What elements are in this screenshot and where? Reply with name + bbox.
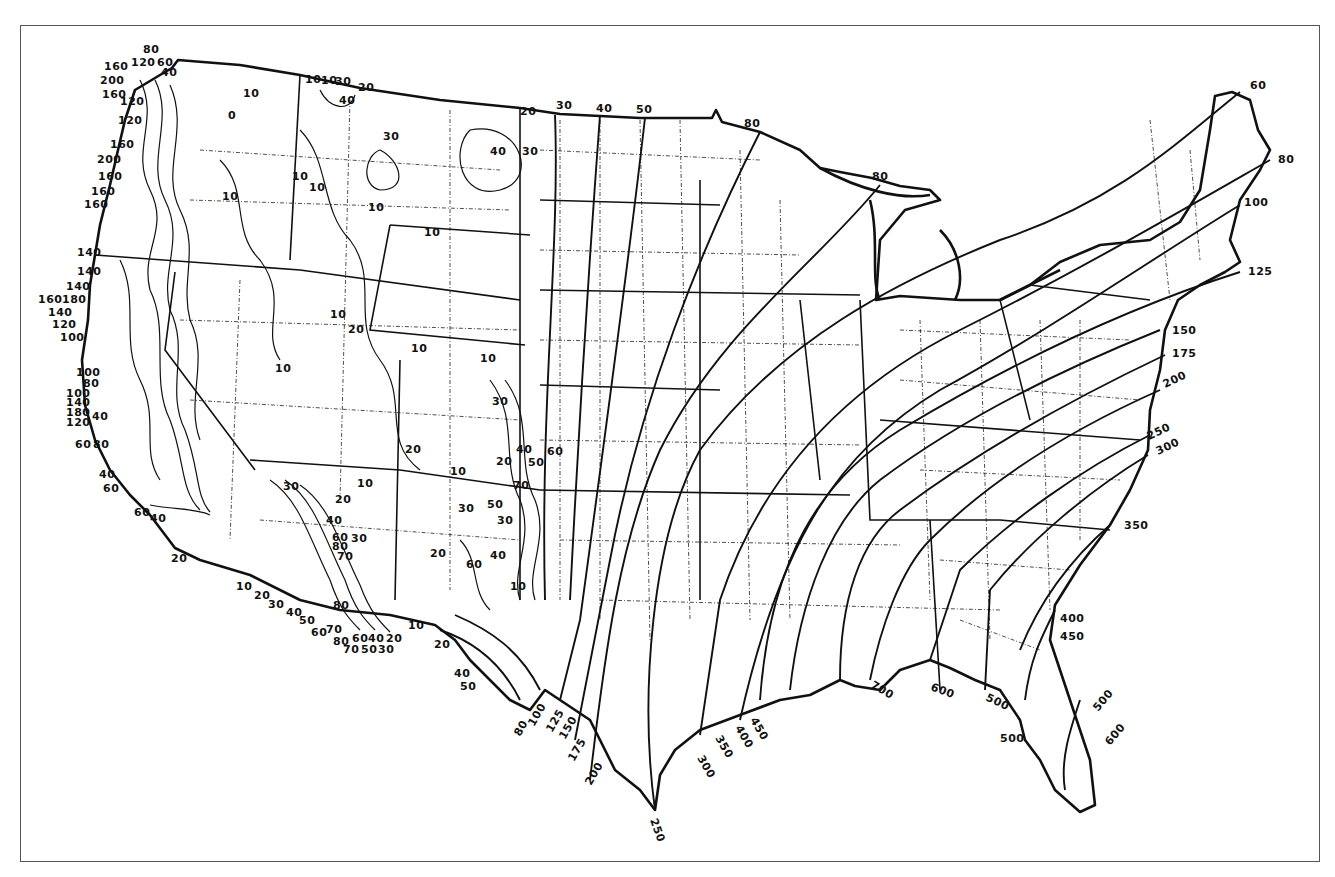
isoline-label: 500 <box>1090 687 1116 714</box>
isoline-label: 20 <box>171 552 187 565</box>
isoline-label: 40 <box>161 66 177 79</box>
isoline-label: 80 <box>872 170 888 183</box>
isoline-label: 60 <box>75 438 91 451</box>
isoline-labels: 8016012060402001601201200101602001601601… <box>38 43 1294 844</box>
isoline-label: 70 <box>343 643 359 656</box>
isoline-label: 20 <box>496 455 512 468</box>
isoline-label: 250 <box>647 817 668 844</box>
isoline-label: 30 <box>378 643 394 656</box>
isoline-label: 10 <box>243 87 259 100</box>
isoline-label: 200 <box>582 760 605 788</box>
isoline-label: 20 <box>434 638 450 651</box>
western-isolines <box>120 80 540 632</box>
isoline-label: 40 <box>516 443 532 456</box>
isoline-label: 20 <box>405 443 421 456</box>
isoline-label: 20 <box>335 493 351 506</box>
isoline-label: 10 <box>222 190 238 203</box>
isoline-label: 120 <box>131 56 155 69</box>
isoline-label: 40 <box>596 102 612 115</box>
isoline-label: 80 <box>333 599 349 612</box>
isoline-label: 10 <box>236 580 252 593</box>
isoline-label: 30 <box>497 514 513 527</box>
isoline-label: 40 <box>99 468 115 481</box>
isoline-label: 40 <box>150 512 166 525</box>
isoline-label: 350 <box>712 733 735 761</box>
isoline-label: 10 <box>450 465 466 478</box>
isoline-label: 30 <box>351 532 367 545</box>
isoline-label: 50 <box>460 680 476 693</box>
isoline-label: 100 <box>1244 196 1268 209</box>
isoline-label: 60 <box>311 626 327 639</box>
isoline-label: 30 <box>492 395 508 408</box>
isoline-label: 80 <box>93 438 109 451</box>
isoline-label: 10 <box>411 342 427 355</box>
isoline-label: 350 <box>1124 519 1148 532</box>
isoline-label: 80 <box>1278 153 1294 166</box>
isoline-label: 10 <box>510 580 526 593</box>
isoline-label: 0 <box>228 109 236 122</box>
isoline-label: 10 <box>408 619 424 632</box>
isoline-label: 700 <box>869 678 897 701</box>
isoline-label: 600 <box>1102 721 1128 748</box>
isoline-label: 140 <box>77 246 101 259</box>
isoline-label: 80 <box>744 117 760 130</box>
isoline-label: 100 <box>60 331 84 344</box>
county-boundaries <box>180 100 1200 650</box>
isoline-label: 10 <box>368 201 384 214</box>
isoline-label: 70 <box>513 479 529 492</box>
isoline-label: 300 <box>694 753 717 781</box>
isoline-label: 10 <box>305 73 321 86</box>
isoline-label: 30 <box>283 480 299 493</box>
isoline-label: 30 <box>556 99 572 112</box>
isoline-label: 40 <box>454 667 470 680</box>
isoline-label: 500 <box>984 691 1012 713</box>
isoline-label: 160 <box>84 198 108 211</box>
isoline-label: 60 <box>103 482 119 495</box>
isoline-label: 60 <box>466 558 482 571</box>
isoline-label: 20 <box>430 547 446 560</box>
isoline-label: 160 <box>104 60 128 73</box>
isoline-label: 30 <box>458 502 474 515</box>
isoline-label: 180 <box>62 293 86 306</box>
isoline-label: 160 <box>91 185 115 198</box>
isoline-label: 10 <box>275 362 291 375</box>
isoline-label: 30 <box>383 130 399 143</box>
isoline-label: 10 <box>480 352 496 365</box>
us-isoline-map: 8016012060402001601201200101602001601601… <box>0 0 1335 877</box>
isoline-label: 40 <box>92 410 108 423</box>
great-lakes <box>820 168 1060 300</box>
isoline-label: 40 <box>339 94 355 107</box>
isoline-label: 50 <box>487 498 503 511</box>
isoline-label: 40 <box>490 145 506 158</box>
isoline-label: 160 <box>98 170 122 183</box>
isoline-label: 160 <box>110 138 134 151</box>
isoline-label: 120 <box>120 95 144 108</box>
isoline-label: 600 <box>929 681 956 702</box>
isoline-label: 120 <box>66 416 90 429</box>
isoline-label: 60 <box>1250 79 1266 92</box>
isoline-label: 10 <box>292 170 308 183</box>
isoline-label: 40 <box>490 549 506 562</box>
isoline-label: 120 <box>52 318 76 331</box>
isoline-label: 20 <box>358 81 374 94</box>
isoline-label: 80 <box>143 43 159 56</box>
isoline-label: 160 <box>38 293 62 306</box>
isoline-label: 175 <box>1172 347 1196 360</box>
isoline-label: 200 <box>97 153 121 166</box>
isoline-label: 50 <box>528 456 544 469</box>
isoline-label: 30 <box>522 145 538 158</box>
isoline-label: 175 <box>565 736 588 764</box>
isoline-label: 140 <box>66 280 90 293</box>
isoline-label: 30 <box>268 598 284 611</box>
isoline-label: 500 <box>1000 732 1024 745</box>
isoline-label: 10 <box>330 308 346 321</box>
isoline-label: 200 <box>100 74 124 87</box>
isoline-label: 60 <box>134 506 150 519</box>
isoline-label: 50 <box>636 103 652 116</box>
isoline-label: 20 <box>520 105 536 118</box>
isoline-label: 10 <box>424 226 440 239</box>
isoline-label: 400 <box>1060 612 1084 625</box>
isoline-label: 20 <box>348 323 364 336</box>
isoline-label: 40 <box>326 514 342 527</box>
isoline-label: 10 <box>309 181 325 194</box>
